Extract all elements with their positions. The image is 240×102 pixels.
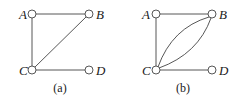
node-b-D — [208, 66, 216, 74]
node-label-a-C: C — [19, 63, 28, 78]
node-b-B — [208, 10, 216, 18]
edge-a-CB — [35, 17, 86, 67]
diagram-a: A B C D (a) — [18, 7, 106, 95]
node-a-D — [85, 66, 93, 74]
node-a-A — [28, 10, 36, 18]
node-b-C — [152, 66, 160, 74]
edge-b-CB-lower — [159, 18, 211, 68]
node-label-b-D: D — [218, 63, 229, 78]
caption-a: (a) — [53, 81, 66, 95]
node-label-a-A: A — [18, 7, 27, 22]
diagram-b: A B C D (b) — [141, 7, 229, 95]
edge-b-CB-upper — [158, 17, 209, 67]
node-a-B — [85, 10, 93, 18]
node-label-b-B: B — [219, 7, 227, 22]
node-b-A — [152, 10, 160, 18]
caption-b: (b) — [176, 81, 190, 95]
node-label-b-C: C — [142, 63, 151, 78]
node-label-b-A: A — [141, 7, 150, 22]
node-label-a-D: D — [95, 63, 106, 78]
graph-diagrams: A B C D (a) A B C D (b) — [0, 0, 240, 102]
node-label-a-B: B — [96, 7, 104, 22]
node-a-C — [28, 66, 36, 74]
